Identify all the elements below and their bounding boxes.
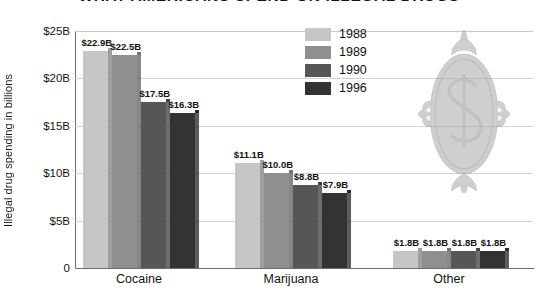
y-axis-tick-label: $5B [14,215,70,227]
bar-value-label: $1.8B [452,237,477,248]
bar-value-label: $17.5B [139,88,170,99]
x-axis-line [75,268,534,269]
bar-top-bevel [318,182,322,185]
bar-value-label: $7.9B [323,179,348,190]
legend-color-swatch [305,46,331,59]
bar: $8.8B [293,185,318,268]
legend-item-1989: 1989 [305,44,401,60]
y-axis-tick-label: $20B [14,72,70,84]
bar-value-label: $11.1B [234,149,264,160]
bar-side-shadow [505,251,509,268]
bar-value-label: $1.8B [481,237,506,248]
bar-face [422,251,447,268]
bar-value-label: $1.8B [423,237,448,248]
y-axis-title: Illegal drug spending in billions [2,36,16,264]
legend-item-1990: 1990 [305,62,401,78]
legend-item-1996: 1996 [305,80,401,96]
legend-color-swatch [305,64,331,77]
legend-item-1988: 1988 [305,26,401,42]
y-axis-tick-label: $25B [14,25,70,37]
bar-value-label: $16.3B [168,99,199,110]
chart-legend: 1988198919901996 [305,26,401,98]
bar-value-label: $22.5B [110,41,141,52]
bar-value-label: $10.0B [262,159,293,170]
bar-face [170,113,195,268]
bar-face [112,55,137,268]
y-axis-tick-label: $10B [14,167,70,179]
legend-color-swatch [305,28,331,41]
bar: $1.8B [393,251,418,268]
bar: $1.8B [422,251,447,268]
bar-value-label: $8.8B [294,171,319,182]
plot-area: $25B$20B$15B$10B$5B0$22.9B$22.5B$17.5B$1… [75,31,533,268]
bar-face [393,251,418,268]
bar-top-bevel [289,170,293,173]
bar-face [83,51,108,268]
bar: $7.9B [322,193,347,268]
bar-value-label: $22.9B [81,37,112,48]
bar: $11.1B [235,163,260,268]
bar-face [322,193,347,268]
bar-top-bevel [347,190,351,193]
bar-face [480,251,505,268]
x-axis-category-label: Other [393,272,505,286]
bar-face [264,173,289,268]
bar-top-bevel [195,110,199,113]
bar: $16.3B [170,113,195,268]
x-axis-category-label: Marijuana [235,272,347,286]
bar: $22.5B [112,55,137,268]
bar-side-shadow [347,193,351,268]
legend-label: 1989 [339,46,367,59]
bar: $17.5B [141,102,166,268]
bar-chart: WHAT AMERICANS SPEND ON ILLEGAL DRUGS Il… [0,0,538,293]
bar: $1.8B [451,251,476,268]
bar: $1.8B [480,251,505,268]
bar-top-bevel [505,248,509,251]
legend-label: 1996 [339,82,367,95]
y-axis-tick-label: 0 [14,262,70,274]
legend-label: 1990 [339,64,367,77]
gridline [75,31,533,32]
bar-side-shadow [195,113,199,268]
bar: $10.0B [264,173,289,268]
gridline [75,78,533,79]
bar-face [293,185,318,268]
bar: $22.9B [83,51,108,268]
legend-color-swatch [305,82,331,95]
bar-face [141,102,166,268]
x-axis-category-label: Cocaine [83,272,195,286]
bar-value-label: $1.8B [394,237,419,248]
bar-face [235,163,260,268]
y-axis-tick-label: $15B [14,120,70,132]
bar-face [451,251,476,268]
chart-title: WHAT AMERICANS SPEND ON ILLEGAL DRUGS [0,0,538,5]
bar-top-bevel [137,52,141,55]
legend-label: 1988 [339,28,367,41]
